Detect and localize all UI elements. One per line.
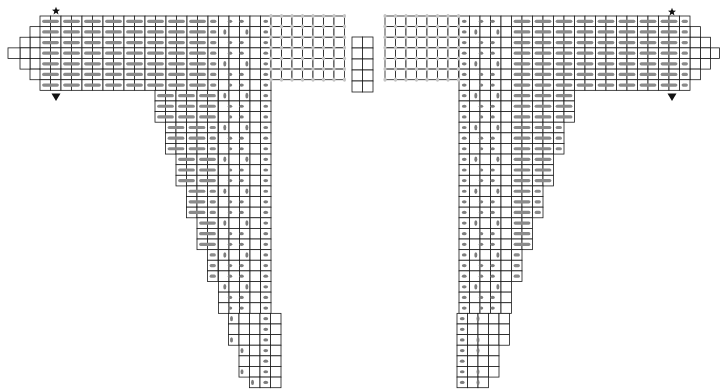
- lace-dot: [446, 25, 449, 29]
- stitch-dot: [245, 61, 248, 67]
- grid-cell: [480, 90, 491, 101]
- grid-cell: [448, 69, 459, 80]
- stitch-dot: [474, 125, 477, 131]
- lace-dot: [383, 14, 386, 18]
- grid-cell: [240, 282, 251, 293]
- stitch-dot: [239, 232, 243, 235]
- grid-cell: [501, 282, 512, 293]
- grid-cell: [478, 366, 489, 377]
- stitch-dot: [460, 370, 465, 373]
- stitch-dash: [178, 158, 195, 161]
- grid-cell: [352, 37, 363, 48]
- grid-cell: [396, 69, 407, 80]
- stitch-dot: [263, 179, 268, 182]
- grid-cell: [711, 48, 720, 59]
- grid-cell: [438, 37, 449, 48]
- grid-cell: [396, 48, 407, 59]
- stitch-dot: [239, 275, 243, 278]
- stitch-dash: [210, 30, 216, 33]
- lace-dot: [343, 56, 346, 60]
- stitch-dot: [490, 296, 494, 299]
- stitch-dot: [263, 370, 268, 373]
- lace-dot: [332, 25, 335, 29]
- stitch-dash: [598, 30, 615, 33]
- stitch-dot: [239, 52, 243, 55]
- grid-cell: [491, 282, 502, 293]
- stitch-dash: [126, 83, 143, 86]
- stitch-dash: [640, 41, 657, 44]
- stitch-dot: [462, 147, 467, 150]
- stitch-dot: [477, 337, 480, 342]
- lace-dot: [290, 46, 293, 50]
- stitch-dot: [490, 264, 494, 267]
- grid-cell: [480, 186, 491, 197]
- stitch-dash: [535, 83, 552, 86]
- lace-dot: [343, 14, 346, 18]
- stitch-dash: [210, 275, 216, 278]
- stitch-dash: [168, 20, 185, 23]
- lace-dot: [446, 56, 449, 60]
- grid-cell: [303, 58, 314, 69]
- stitch-dot: [462, 221, 467, 224]
- lace-dot: [415, 78, 418, 82]
- stitch-dash: [42, 62, 59, 65]
- lace-dot: [436, 78, 439, 82]
- grid-cell: [501, 69, 512, 80]
- stitch-dot: [228, 232, 232, 235]
- grid-cell: [363, 37, 374, 48]
- lace-dot: [290, 67, 293, 71]
- grid-cell: [501, 154, 512, 165]
- lace-dot: [322, 67, 325, 71]
- stitch-dot: [228, 264, 232, 267]
- grid-cell: [427, 27, 438, 38]
- grid-cell: [250, 165, 261, 176]
- stitch-dash: [178, 179, 195, 182]
- stitch-dot: [496, 29, 499, 35]
- grid-cell: [406, 27, 417, 38]
- stitch-dot: [263, 83, 268, 86]
- stitch-dash: [535, 73, 552, 76]
- lace-dot: [394, 35, 397, 39]
- grid-cell: [438, 58, 449, 69]
- stitch-dot: [223, 157, 226, 163]
- stitch-dot: [462, 126, 467, 129]
- grid-cell: [250, 90, 261, 101]
- stitch-dot: [462, 105, 467, 108]
- stitch-dot: [490, 105, 494, 108]
- stitch-dash: [514, 94, 531, 97]
- stitch-dot: [479, 211, 483, 214]
- grid-cell: [438, 27, 449, 38]
- lace-dot: [425, 67, 428, 71]
- stitch-dot: [477, 369, 480, 374]
- grid-cell: [470, 16, 481, 27]
- lace-dot: [436, 35, 439, 39]
- stitch-dash: [210, 200, 216, 203]
- stitch-dot: [462, 200, 467, 203]
- lace-dot: [290, 25, 293, 29]
- stitch-dot: [496, 125, 499, 131]
- stitch-dot: [228, 41, 232, 44]
- grid-cell: [448, 48, 459, 59]
- grid-cell: [478, 345, 489, 356]
- grid-cell: [219, 292, 230, 303]
- stitch-dot: [462, 306, 467, 309]
- grid-cell: [480, 154, 491, 165]
- stitch-dot: [496, 157, 499, 163]
- stitch-dot: [223, 61, 226, 67]
- stitch-dot: [496, 188, 499, 194]
- grid-cell: [229, 90, 240, 101]
- stitch-dot: [263, 73, 268, 76]
- grid-cell: [478, 313, 489, 324]
- grid-cell: [501, 143, 512, 154]
- lace-dot: [436, 46, 439, 50]
- stitch-dash: [514, 211, 531, 214]
- grid-cell: [491, 27, 502, 38]
- grid-cell: [448, 37, 459, 48]
- stitch-dot: [462, 275, 467, 278]
- grid-cell: [240, 122, 251, 133]
- grid-cell: [271, 69, 282, 80]
- stitch-dot: [251, 380, 254, 385]
- lace-dot: [446, 14, 449, 18]
- stitch-dash: [210, 126, 216, 129]
- grid-cell: [292, 48, 303, 59]
